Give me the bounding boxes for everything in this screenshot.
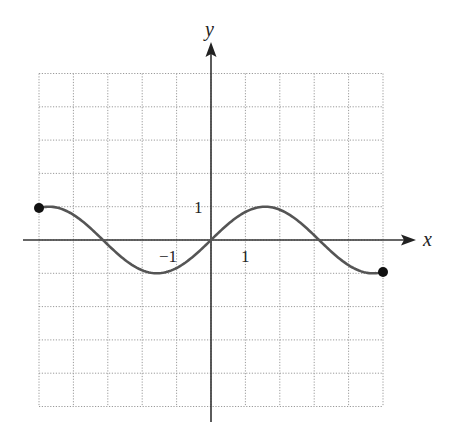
left-endpoint-dot xyxy=(34,203,44,213)
y-axis xyxy=(206,42,217,422)
x-tick-label-1: 1 xyxy=(241,247,250,266)
x-axis-label: x xyxy=(422,228,432,250)
y-tick-label-1: 1 xyxy=(194,198,203,217)
chart: x y −1 1 1 xyxy=(0,0,450,433)
right-endpoint-dot xyxy=(378,267,388,277)
x-tick-label-neg1: −1 xyxy=(159,247,177,266)
x-axis xyxy=(23,235,416,246)
y-axis-label: y xyxy=(203,18,214,41)
